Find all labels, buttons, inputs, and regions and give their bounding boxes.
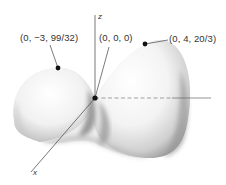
point-right-peak xyxy=(143,42,148,47)
point-left-peak xyxy=(56,66,61,71)
label-left-peak: (0, −3, 99/32) xyxy=(20,32,78,43)
surface-diagram xyxy=(0,0,226,185)
label-origin: (0, 0, 0) xyxy=(99,32,133,43)
point-origin xyxy=(92,95,97,100)
surface xyxy=(13,40,190,158)
x-axis-label: x xyxy=(33,168,37,177)
label-right-peak: (0, 4, 20/3) xyxy=(169,33,216,44)
z-axis-label: z xyxy=(98,12,102,21)
